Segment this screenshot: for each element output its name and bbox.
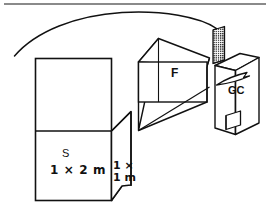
funnel-group (139, 39, 210, 131)
connecting-flap-group (112, 112, 132, 201)
grid-filter-group (213, 27, 225, 64)
technical-diagram (0, 0, 269, 219)
funnel-label: F (171, 67, 178, 79)
storage-box-outline (36, 59, 112, 201)
gas-chamber-label: GC (228, 85, 245, 96)
storage-box-group (36, 59, 123, 201)
storage-box-label: S (62, 148, 70, 159)
storage-box-dimension-label: 1 × 2 m (50, 164, 106, 176)
diagram-page: S 1 × 2 m 1 × 1 m F GC (0, 0, 269, 219)
flap-dimension-line-2: 1 m (113, 172, 136, 184)
connecting-flap-outline (112, 112, 132, 201)
flap-dimension-label: 1 × 1 m (113, 160, 136, 184)
grid-filter-panel (213, 27, 225, 64)
